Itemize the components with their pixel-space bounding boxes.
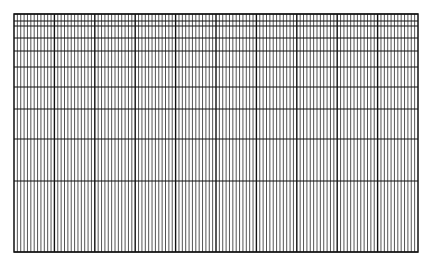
major-vertical-lines — [54, 14, 377, 252]
log-grid-paper — [0, 0, 430, 263]
